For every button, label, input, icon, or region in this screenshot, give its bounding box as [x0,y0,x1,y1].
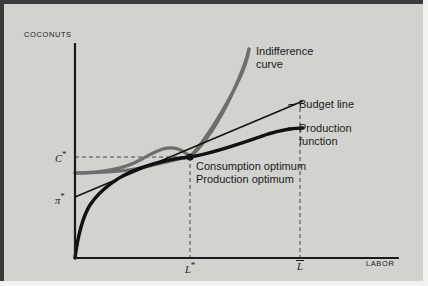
economics-plot [0,0,428,286]
budget-line-label: Budget line [299,98,354,111]
figure-container: COCONUTS LABOR C* π* L* L Indifference c… [0,0,428,286]
x-tick-l-star-superscript: * [191,260,196,270]
production-function-label-line1: Production [299,122,352,135]
production-function-curve [75,128,303,258]
indifference-curve-label: Indifference curve [256,45,313,70]
y-tick-pi-star-superscript: * [60,191,65,201]
production-optimum-label: Production optimum [196,173,306,186]
consumption-optimum-label: Consumption optimum [196,160,306,173]
optimum-labels: Consumption optimum Production optimum [196,160,306,185]
y-tick-c-star: C* [55,149,67,165]
x-tick-l-star: L* [185,260,195,276]
indifference-curve-label-line1: Indifference [256,45,313,58]
indifference-curve-label-line2: curve [256,58,313,71]
y-tick-pi-star: π* [55,191,65,207]
y-tick-c-star-symbol: C [55,153,62,164]
indifference-curve-upper [190,49,249,157]
x-tick-l-bar: L [296,260,304,273]
y-axis-title: COCONUTS [24,31,72,40]
x-tick-l-bar-symbol: L [296,260,304,272]
x-axis-title: LABOR [366,260,394,269]
production-function-label: Production function [299,122,352,147]
production-function-label-line2: function [299,135,352,148]
tangency-point-dot [186,153,193,160]
y-tick-c-star-superscript: * [62,149,67,159]
